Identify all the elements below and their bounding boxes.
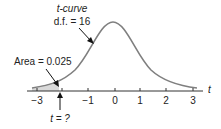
t-distribution-diagram: −3 −1 0 1 2 3 t t-curve d.f. = 16 Area =… bbox=[0, 0, 221, 129]
tick-label: −3 bbox=[31, 95, 43, 106]
tick-label: 3 bbox=[190, 95, 196, 106]
t-query-label: t = ? bbox=[50, 113, 70, 124]
arrowhead-icon bbox=[57, 92, 63, 98]
df-label: d.f. = 16 bbox=[54, 16, 91, 27]
area-label: Area = 0.025 bbox=[14, 56, 72, 67]
tick-label: 1 bbox=[137, 95, 143, 106]
t-curve bbox=[32, 22, 197, 88]
curve-title-text: t-curve bbox=[57, 3, 88, 14]
tick-label: −1 bbox=[82, 95, 94, 106]
tick-label: 0 bbox=[112, 95, 118, 106]
curve-title: t-curve bbox=[57, 3, 88, 14]
axis-label: t bbox=[208, 84, 212, 95]
tick-label: 2 bbox=[163, 95, 169, 106]
